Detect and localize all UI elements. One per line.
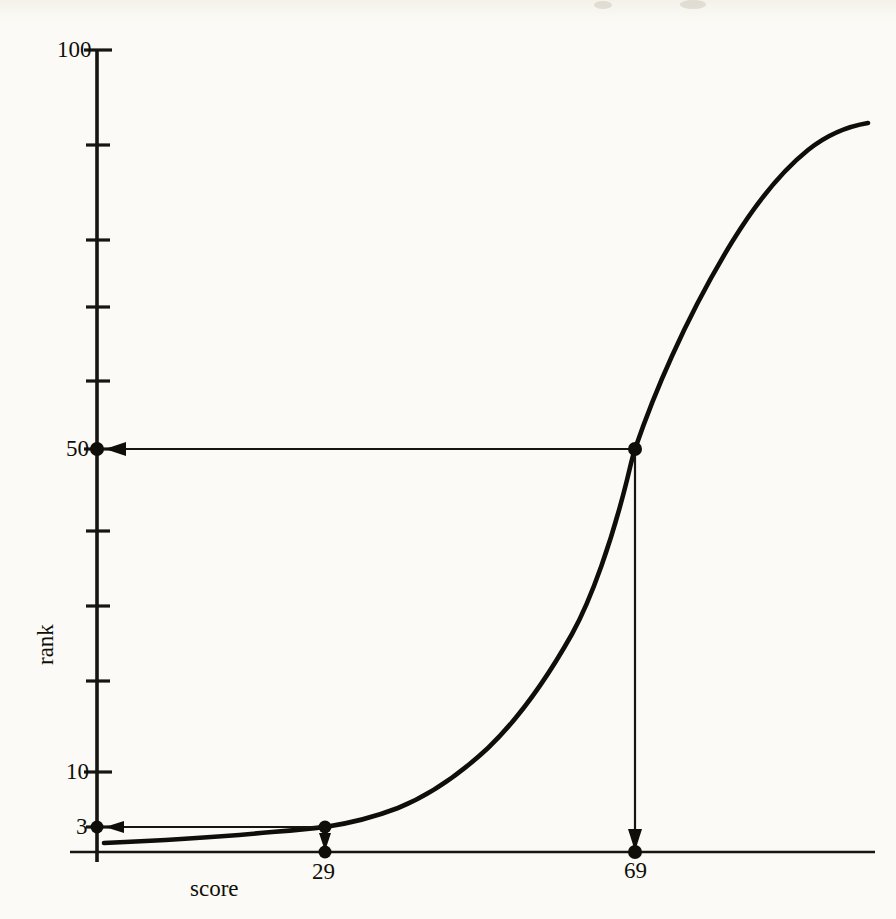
axis-point-rank-50 — [90, 442, 104, 456]
rank-score-plot — [0, 0, 896, 919]
chart-figure: 100 50 10 3 29 69 score rank — [0, 0, 896, 919]
y-tick-label-100: 100 — [57, 38, 92, 61]
y-tick-label-10: 10 — [66, 760, 89, 783]
arrowhead-rank-50 — [105, 442, 126, 456]
y-tick-label-50: 50 — [66, 437, 89, 460]
arrowhead-rank-3 — [105, 821, 124, 833]
axis-point-score-69 — [628, 845, 642, 859]
y-axis-title: rank — [34, 624, 57, 665]
y-tick-label-3: 3 — [76, 815, 88, 838]
x-axis-title: score — [190, 877, 239, 900]
data-point-69-50 — [628, 442, 642, 456]
axis-point-rank-3 — [91, 821, 104, 834]
data-point-29-3 — [319, 821, 332, 834]
axis-point-score-29 — [319, 846, 332, 859]
x-tick-label-69: 69 — [624, 859, 647, 882]
x-tick-label-29: 29 — [312, 860, 335, 883]
ogive-curve — [104, 123, 868, 843]
